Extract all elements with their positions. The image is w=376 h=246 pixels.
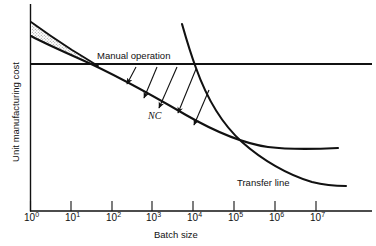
transfer-line-curve xyxy=(182,24,346,186)
chart-canvas xyxy=(0,0,376,246)
transfer-line-label: Transfer line xyxy=(237,177,289,188)
x-tick-label-7: 107 xyxy=(310,212,325,223)
x-axis-title: Batch size xyxy=(154,229,198,240)
savings-arrow-3 xyxy=(159,67,177,108)
savings-arrow-2 xyxy=(144,67,157,98)
nc-upper-curve xyxy=(31,22,98,66)
x-tick-label-3: 103 xyxy=(146,212,161,223)
x-tick-label-1: 101 xyxy=(65,212,80,223)
chart-figure: Unit manufacturing cost Batch size 100 1… xyxy=(0,0,376,246)
x-tick-label-2: 102 xyxy=(106,212,121,223)
savings-arrows xyxy=(127,67,209,125)
y-axis-title: Unit manufacturing cost xyxy=(5,27,23,197)
x-tick-label-5: 105 xyxy=(228,212,243,223)
savings-arrow-1 xyxy=(127,67,136,84)
nc-label: NC xyxy=(148,110,161,121)
savings-arrow-5 xyxy=(194,90,209,125)
x-tick-label-6: 106 xyxy=(269,212,284,223)
x-tick-label-4: 104 xyxy=(187,212,202,223)
x-axis-ticks xyxy=(31,201,317,211)
manual-operation-label: Manual operation xyxy=(97,50,170,61)
x-tick-label-0: 100 xyxy=(24,212,39,223)
y-axis-title-text: Unit manufacturing cost xyxy=(10,62,21,162)
savings-arrow-4 xyxy=(178,69,196,113)
